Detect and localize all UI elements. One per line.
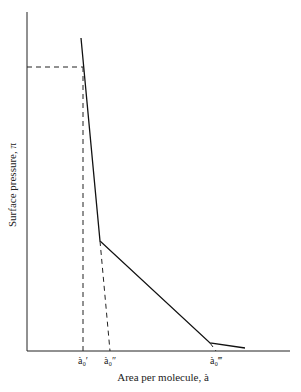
isotherm-diagram: à₀′ à₀″ à₀‴ Area per molecule, à Surface…: [0, 0, 301, 392]
tick-label-a0-triple-prime: à₀‴: [210, 355, 223, 366]
isotherm-curve: [81, 38, 245, 348]
y-axis-label: Surface pressure, π: [6, 143, 18, 227]
x-axis-label: Area per molecule, à: [117, 371, 209, 383]
tick-label-a0-prime: à₀′: [78, 355, 88, 366]
a0-double-prime-dash: [100, 241, 110, 351]
tick-label-a0-double-prime: à₀″: [104, 355, 116, 366]
